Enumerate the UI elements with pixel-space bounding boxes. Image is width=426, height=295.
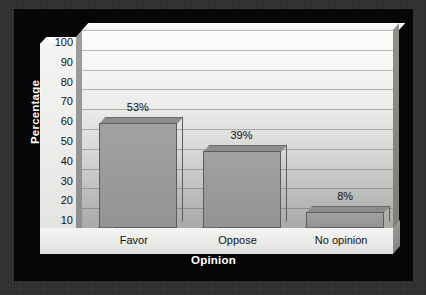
y-axis-tick-label: 20: [40, 195, 73, 206]
floor-side-bevel: [393, 220, 400, 254]
chart-screenshot: Percentage 1009080706050403020100 53%39%…: [0, 0, 426, 295]
bars-layer: 53%39%8%: [82, 30, 393, 228]
y-axis-scale: 1009080706050403020100: [40, 37, 82, 241]
y-axis-title: Percentage: [29, 66, 41, 158]
bar-front-face: [203, 151, 281, 228]
y-axis-tick-label: 10: [40, 215, 73, 226]
bar[interactable]: 39%: [203, 151, 281, 228]
bar-front-face: [99, 123, 177, 228]
y-axis-tick-label: 100: [40, 37, 73, 48]
bar-front-face: [306, 212, 384, 228]
bar-side-face: [177, 116, 183, 228]
y-axis-tick-label: 50: [40, 136, 73, 147]
bar[interactable]: 53%: [99, 123, 177, 228]
wall-top-bevel: [82, 23, 405, 30]
y-axis-tick-label: 90: [40, 57, 73, 68]
y-axis-tick-list: 1009080706050403020100: [40, 43, 73, 241]
chart-panel: Percentage 1009080706050403020100 53%39%…: [14, 9, 413, 281]
y-axis-tick-label: 60: [40, 116, 73, 127]
x-axis-category-label: Oppose: [186, 235, 290, 246]
x-axis-title: Opinion: [14, 254, 413, 266]
x-axis-category-label: No opinion: [289, 235, 393, 246]
bar-side-face: [281, 144, 287, 228]
plot-floor: FavorOpposeNo opinion: [40, 228, 399, 254]
y-axis-tick-label: 70: [40, 96, 73, 107]
wall-side-bevel: [393, 23, 399, 235]
y-axis-tick-label: 40: [40, 156, 73, 167]
y-axis-tick-label: 30: [40, 176, 73, 187]
bar-value-label: 39%: [203, 130, 281, 141]
x-axis-category-label: Favor: [82, 235, 186, 246]
bar-value-label: 8%: [306, 191, 384, 202]
bar[interactable]: 8%: [306, 212, 384, 228]
y-axis-tick-label: 80: [40, 77, 73, 88]
y-axis-side-bevel: [76, 30, 82, 235]
floor-face: FavorOpposeNo opinion: [40, 228, 393, 254]
bar-value-label: 53%: [99, 102, 177, 113]
